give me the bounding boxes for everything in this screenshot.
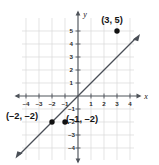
y-tick-label: 2	[70, 66, 74, 73]
y-tick-label: 4	[70, 40, 74, 47]
y-tick-label: –1	[68, 105, 75, 112]
data-point-3-5	[114, 28, 119, 33]
point-label-3-5: (3, 5)	[101, 15, 123, 25]
coordinate-plane-svg: –4 –3 –2 –1 1 2 3 4 5 4 3 2 1 –1 –2 –3 –…	[0, 0, 159, 165]
x-axis-label: x	[143, 92, 148, 101]
x-tick-label: 2	[102, 100, 106, 107]
y-axis-label: y	[82, 10, 87, 19]
y-tick-label: 3	[70, 53, 74, 60]
y-tick-label: 5	[70, 27, 74, 34]
point-label-neg2-neg2: (–2, –2)	[6, 111, 38, 121]
x-tick-label: –2	[49, 100, 56, 107]
data-point-neg2-neg2	[49, 119, 54, 124]
y-tick-label: 1	[70, 79, 74, 86]
y-tick-label: –4	[68, 144, 75, 151]
x-tick-label: –3	[36, 100, 43, 107]
x-tick-label: 4	[128, 100, 132, 107]
x-tick-label: 3	[115, 100, 119, 107]
coordinate-graph-figure: –4 –3 –2 –1 1 2 3 4 5 4 3 2 1 –1 –2 –3 –…	[0, 0, 159, 165]
figure-background	[0, 0, 159, 165]
x-tick-label: –4	[23, 100, 30, 107]
y-tick-label: –3	[68, 131, 75, 138]
point-label-neg1-neg2: (–1, –2)	[66, 114, 98, 124]
x-tick-label: 1	[89, 100, 93, 107]
